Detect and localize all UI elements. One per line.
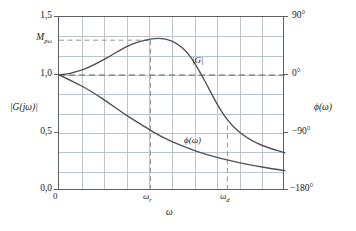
plot-area (58, 16, 284, 190)
phase-tick-label-minus-180: −180° (290, 184, 313, 194)
tick-left-1 (54, 16, 58, 17)
x-origin-label: 0 (53, 192, 58, 201)
tick-right-3 (284, 132, 288, 133)
phase-tick-label-90: 90° (292, 11, 305, 21)
chart-figure: 1,5 1,0 0,5 0,0 Mpω 90° 0° −90° −180° 0 … (0, 0, 356, 231)
x-tick-label-omega-d: ωd (220, 192, 230, 203)
tick-left-3 (54, 132, 58, 133)
x-tick-label-omega-r: ωr (143, 192, 152, 203)
series-magnitude (59, 38, 285, 153)
y-axis-right-title: ϕ(ω) (314, 103, 332, 113)
y-tick-label-1-0: 1,0 (8, 69, 52, 79)
tick-left-4 (54, 189, 58, 190)
mpw-subscript: pω (44, 37, 52, 44)
annotation-phase: ϕ(ω) (184, 135, 201, 145)
tick-right-2 (284, 74, 288, 75)
phase-tick-label-minus-90: −90° (292, 127, 311, 137)
y-tick-label-0-5: 0,5 (8, 127, 52, 137)
y-tick-label-1-5: 1,5 (8, 11, 52, 21)
omega-d-subscript: d (226, 196, 229, 203)
y-tick-label-0-0: 0,0 (8, 184, 52, 194)
omega-r-subscript: r (149, 196, 152, 203)
curves-layer (59, 17, 285, 191)
y-tick-label-mpw: Mpω (8, 33, 52, 44)
tick-right-4 (284, 189, 288, 190)
y-axis-left-title: |G(jω)| (10, 103, 38, 113)
tick-left-2 (54, 74, 58, 75)
x-axis-title: ω (166, 208, 173, 218)
series-phase (59, 75, 285, 171)
annotation-magnitude: |G| (192, 55, 203, 65)
tick-right-1 (284, 16, 288, 17)
phase-tick-label-0: 0° (292, 69, 301, 79)
